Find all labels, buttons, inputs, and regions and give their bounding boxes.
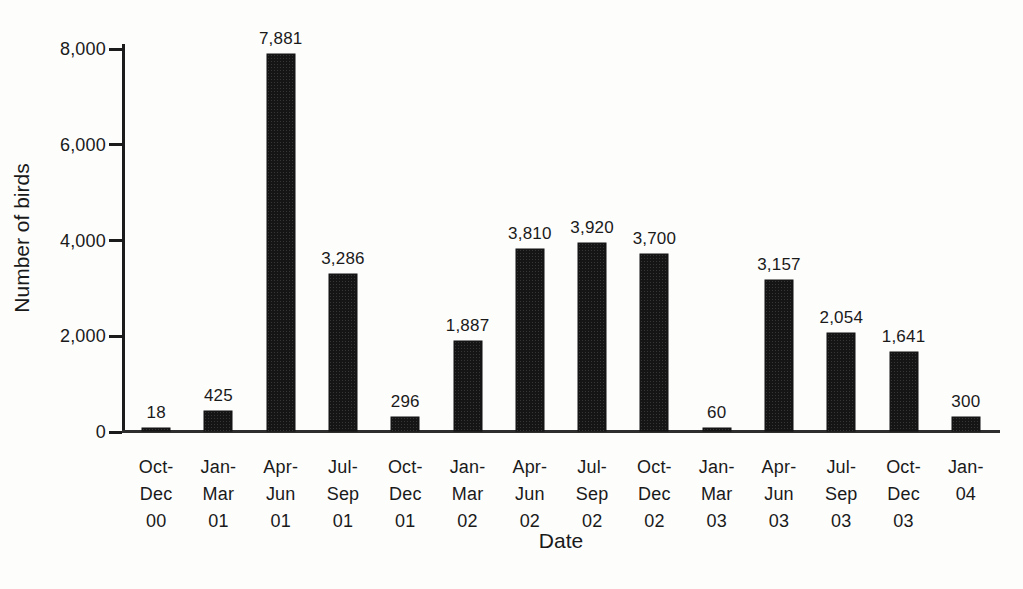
bar bbox=[391, 417, 419, 431]
bar-value-label: 300 bbox=[924, 392, 1008, 411]
y-axis-line bbox=[122, 44, 125, 432]
bar bbox=[454, 341, 482, 431]
y-tick-mark bbox=[109, 48, 122, 51]
bar-value-label: 1,887 bbox=[426, 316, 510, 335]
bar bbox=[640, 254, 668, 431]
bar bbox=[827, 333, 855, 431]
bar-value-label: 3,157 bbox=[737, 255, 821, 274]
bar-value-label: 3,286 bbox=[301, 249, 385, 268]
bar bbox=[329, 274, 357, 431]
x-tick-label: Jan- 04 bbox=[924, 454, 1008, 508]
y-tick-label: 8,000 bbox=[0, 39, 106, 59]
y-tick-mark bbox=[109, 239, 122, 242]
bar-value-label: 296 bbox=[363, 392, 447, 411]
x-axis-line bbox=[122, 430, 1000, 433]
y-tick-mark bbox=[109, 143, 122, 146]
bird-count-bar-chart-figure: Number of birds 184257,8813,2862961,8873… bbox=[0, 0, 1023, 589]
bar-value-label: 7,881 bbox=[239, 29, 323, 48]
bar bbox=[578, 243, 606, 431]
bar bbox=[204, 411, 232, 431]
y-tick-label: 2,000 bbox=[0, 326, 106, 346]
bar-value-label: 18 bbox=[114, 403, 198, 422]
bar bbox=[142, 428, 170, 432]
bar bbox=[267, 54, 295, 431]
y-tick-label: 6,000 bbox=[0, 135, 106, 155]
y-tick-label: 4,000 bbox=[0, 231, 106, 251]
bar-value-label: 425 bbox=[176, 386, 260, 405]
bar-value-label: 2,054 bbox=[799, 308, 883, 327]
bar-value-label: 60 bbox=[675, 403, 759, 422]
bar bbox=[765, 280, 793, 431]
y-tick-mark bbox=[109, 431, 122, 434]
y-tick-label: 0 bbox=[0, 422, 106, 442]
y-tick-mark bbox=[109, 335, 122, 338]
plot-area: 184257,8813,2862961,8873,8103,9203,70060… bbox=[125, 49, 997, 432]
bar bbox=[952, 417, 980, 431]
bar-value-label: 3,700 bbox=[612, 229, 696, 248]
bar bbox=[516, 249, 544, 431]
bar bbox=[703, 428, 731, 432]
bar bbox=[890, 352, 918, 431]
bar-value-label: 1,641 bbox=[862, 327, 946, 346]
